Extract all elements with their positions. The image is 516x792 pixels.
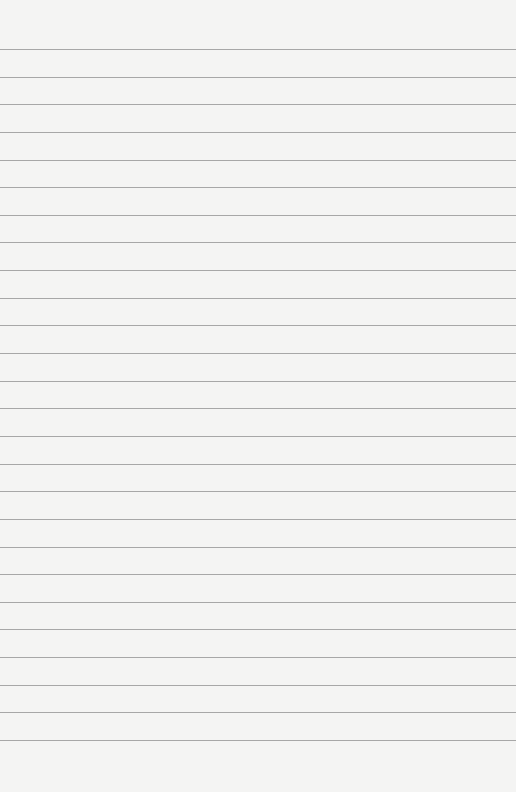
ruled-line xyxy=(0,49,516,50)
ruled-line xyxy=(0,685,516,686)
ruled-line xyxy=(0,464,516,465)
ruled-line xyxy=(0,547,516,548)
ruled-line xyxy=(0,602,516,603)
ruled-line xyxy=(0,187,516,188)
ruled-line xyxy=(0,657,516,658)
ruled-line xyxy=(0,270,516,271)
ruled-line xyxy=(0,160,516,161)
ruled-line xyxy=(0,436,516,437)
ruled-line xyxy=(0,215,516,216)
ruled-line xyxy=(0,519,516,520)
ruled-line xyxy=(0,325,516,326)
ruled-line xyxy=(0,408,516,409)
ruled-line xyxy=(0,353,516,354)
notepaper-background xyxy=(0,0,516,792)
ruled-line xyxy=(0,740,516,741)
ruled-line xyxy=(0,574,516,575)
ruled-line xyxy=(0,77,516,78)
ruled-line xyxy=(0,381,516,382)
ruled-line xyxy=(0,298,516,299)
ruled-line xyxy=(0,491,516,492)
ruled-line xyxy=(0,104,516,105)
ruled-line xyxy=(0,242,516,243)
ruled-line xyxy=(0,132,516,133)
ruled-line xyxy=(0,712,516,713)
ruled-line xyxy=(0,629,516,630)
